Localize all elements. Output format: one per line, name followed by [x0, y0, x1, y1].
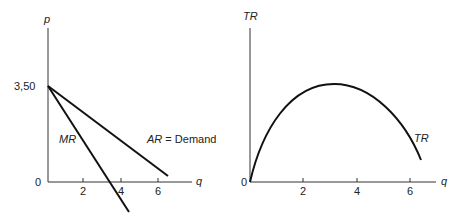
mr-label: MR	[59, 134, 76, 145]
right-x-tick-label-4: 4	[354, 186, 360, 197]
ar-demand-line	[48, 86, 168, 176]
tr-curve	[250, 84, 421, 182]
left-x-tick-label-4: 4	[118, 186, 124, 197]
tr-curve-label: TR	[414, 133, 429, 144]
chart-canvas	[0, 0, 463, 220]
ar-suffix: = Demand	[165, 133, 216, 145]
left-x-tick-label-2: 2	[80, 186, 86, 197]
ar-demand-label: AR = Demand	[147, 134, 216, 145]
left-y-tick-label: 3,50	[14, 81, 35, 92]
ar-label: AR	[147, 133, 162, 145]
left-origin-label: 0	[35, 177, 41, 188]
right-x-tick-label-6: 6	[407, 186, 413, 197]
mr-line	[48, 86, 129, 212]
right-origin-label: 0	[241, 177, 247, 188]
left-y-axis-label: p	[44, 14, 50, 25]
left-x-tick-label-6: 6	[155, 186, 161, 197]
right-x-axis-label: q	[441, 176, 447, 187]
left-x-axis-label: q	[196, 176, 202, 187]
right-y-axis-label: TR	[243, 11, 258, 22]
right-x-tick-label-2: 2	[300, 186, 306, 197]
